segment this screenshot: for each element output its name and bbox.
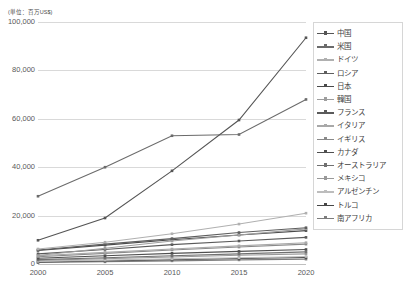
legend-item-label: 米国 bbox=[337, 42, 351, 51]
data-point-marker bbox=[238, 133, 241, 136]
x-tick-label: 2015 bbox=[231, 268, 248, 277]
data-point-marker bbox=[171, 232, 174, 235]
legend-swatch-icon bbox=[317, 69, 334, 78]
legend-item[interactable]: ロシア bbox=[317, 67, 399, 80]
legend-item[interactable]: 中国 bbox=[317, 27, 399, 40]
legend-item-label: イギリス bbox=[337, 135, 365, 144]
legend-swatch-icon bbox=[317, 29, 334, 38]
legend-item-label: 中国 bbox=[337, 29, 351, 38]
legend-item[interactable]: オーストラリア bbox=[317, 159, 399, 172]
legend-item[interactable]: 米国 bbox=[317, 40, 399, 53]
legend-swatch-icon bbox=[317, 214, 334, 223]
data-point-marker bbox=[171, 170, 174, 173]
data-point-marker bbox=[37, 195, 40, 198]
legend-item-label: フランス bbox=[337, 108, 365, 117]
data-point-marker bbox=[104, 241, 107, 244]
legend-item-label: ドイツ bbox=[337, 55, 358, 64]
data-point-marker bbox=[37, 254, 40, 257]
unit-label: (単位：百万US$) bbox=[8, 8, 52, 16]
legend-swatch-icon bbox=[317, 161, 334, 170]
legend-item-label: メキシコ bbox=[337, 174, 365, 183]
legend-swatch-icon bbox=[317, 55, 334, 64]
legend-item[interactable]: 南アフリカ bbox=[317, 212, 399, 225]
legend-swatch-icon bbox=[317, 121, 334, 130]
data-point-marker bbox=[305, 251, 308, 254]
legend-item-label: トルコ bbox=[337, 201, 358, 210]
legend: 中国米国ドイツロシア日本韓国フランスイタリアイギリスカナダオーストラリアメキシコ… bbox=[313, 22, 403, 230]
series-line bbox=[38, 99, 306, 196]
legend-item-label: 南アフリカ bbox=[337, 214, 372, 223]
data-point-marker bbox=[305, 248, 308, 251]
legend-item-label: オーストラリア bbox=[337, 161, 386, 170]
x-tick-label: 2010 bbox=[164, 268, 181, 277]
data-point-marker bbox=[305, 236, 308, 239]
series-lines bbox=[38, 22, 306, 264]
data-point-marker bbox=[238, 231, 241, 234]
legend-item[interactable]: メキシコ bbox=[317, 172, 399, 185]
data-point-marker bbox=[238, 245, 241, 248]
data-point-marker bbox=[171, 237, 174, 240]
line-chart: (単位：百万US$) 020,00040,00060,00080,000100,… bbox=[0, 0, 409, 289]
legend-swatch-icon bbox=[317, 42, 334, 51]
legend-swatch-icon bbox=[317, 187, 334, 196]
legend-item[interactable]: アルゼンチン bbox=[317, 185, 399, 198]
data-point-marker bbox=[238, 253, 241, 256]
data-point-marker bbox=[171, 252, 174, 255]
data-point-marker bbox=[305, 98, 308, 101]
legend-swatch-icon bbox=[317, 95, 334, 104]
legend-item[interactable]: 日本 bbox=[317, 80, 399, 93]
data-point-marker bbox=[305, 36, 308, 39]
legend-item[interactable]: ドイツ bbox=[317, 53, 399, 66]
plot-area bbox=[38, 22, 306, 264]
data-point-marker bbox=[238, 223, 241, 226]
legend-swatch-icon bbox=[317, 148, 334, 157]
legend-swatch-icon bbox=[317, 174, 334, 183]
x-tick-label: 2005 bbox=[97, 268, 114, 277]
data-point-marker bbox=[171, 248, 174, 251]
data-point-marker bbox=[104, 217, 107, 220]
x-axis-line bbox=[38, 264, 306, 265]
data-point-marker bbox=[104, 166, 107, 169]
data-point-marker bbox=[104, 251, 107, 254]
legend-item[interactable]: トルコ bbox=[317, 198, 399, 211]
data-point-marker bbox=[104, 247, 107, 250]
data-point-marker bbox=[305, 226, 308, 229]
data-point-marker bbox=[171, 254, 174, 257]
data-point-marker bbox=[37, 239, 40, 242]
data-point-marker bbox=[37, 248, 40, 251]
data-point-marker bbox=[238, 119, 241, 122]
data-point-marker bbox=[305, 212, 308, 215]
data-point-marker bbox=[171, 240, 174, 243]
x-tick-label: 2000 bbox=[30, 268, 47, 277]
data-point-marker bbox=[305, 255, 308, 258]
legend-item[interactable]: 韓国 bbox=[317, 93, 399, 106]
legend-item[interactable]: フランス bbox=[317, 106, 399, 119]
legend-swatch-icon bbox=[317, 201, 334, 210]
legend-item-label: ロシア bbox=[337, 69, 358, 78]
legend-item-label: アルゼンチン bbox=[337, 187, 379, 196]
data-point-marker bbox=[305, 241, 308, 244]
legend-item-label: 韓国 bbox=[337, 95, 351, 104]
legend-item-label: カナダ bbox=[337, 148, 358, 157]
x-tick-label: 2020 bbox=[298, 268, 315, 277]
data-point-marker bbox=[238, 256, 241, 259]
legend-swatch-icon bbox=[317, 108, 334, 117]
data-point-marker bbox=[171, 134, 174, 137]
data-point-marker bbox=[171, 243, 174, 246]
legend-item-label: 日本 bbox=[337, 82, 351, 91]
legend-swatch-icon bbox=[317, 135, 334, 144]
data-point-marker bbox=[238, 240, 241, 243]
legend-item[interactable]: カナダ bbox=[317, 146, 399, 159]
legend-swatch-icon bbox=[317, 82, 334, 91]
data-point-marker bbox=[238, 234, 241, 237]
legend-item-label: イタリア bbox=[337, 121, 365, 130]
legend-item[interactable]: イタリア bbox=[317, 119, 399, 132]
data-point-marker bbox=[104, 254, 107, 257]
series-line bbox=[38, 38, 306, 241]
legend-item[interactable]: イギリス bbox=[317, 133, 399, 146]
data-point-marker bbox=[238, 250, 241, 253]
